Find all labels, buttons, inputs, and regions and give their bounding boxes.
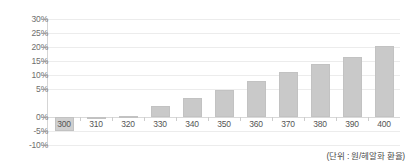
x-tick-330 bbox=[144, 117, 145, 121]
bar-400 bbox=[375, 46, 394, 117]
x-axis-label-320: 320 bbox=[113, 119, 143, 130]
bar-380 bbox=[311, 64, 330, 117]
x-tick-350 bbox=[208, 117, 209, 121]
chart-caption: (단위 : 원/헤알화 환율) bbox=[327, 149, 405, 161]
x-tick-380 bbox=[304, 117, 305, 121]
bar-340 bbox=[183, 98, 202, 117]
x-axis-label-380: 380 bbox=[305, 119, 335, 130]
x-axis-label-350: 350 bbox=[209, 119, 239, 130]
x-tick-390 bbox=[336, 117, 337, 121]
bar-chart: 30% 25% 20% 15% 10% 5% 0% -5% -10% 30031… bbox=[0, 0, 414, 166]
y-axis-label-neg5: -5% bbox=[8, 127, 48, 136]
x-tick-320 bbox=[112, 117, 113, 121]
bar-360 bbox=[247, 81, 266, 117]
y-axis-label-5: 5% bbox=[8, 85, 48, 94]
x-axis-label-310: 310 bbox=[81, 119, 111, 130]
bar-330 bbox=[151, 106, 170, 117]
bar-370 bbox=[279, 72, 298, 117]
y-axis-label-0: 0% bbox=[8, 113, 48, 122]
x-axis-label-370: 370 bbox=[273, 119, 303, 130]
x-axis-label-330: 330 bbox=[145, 119, 175, 130]
x-tick-400 bbox=[368, 117, 369, 121]
y-axis-label-15: 15% bbox=[8, 57, 48, 66]
y-axis-label-10: 10% bbox=[8, 71, 48, 80]
bar-390 bbox=[343, 57, 362, 117]
x-axis-label-340: 340 bbox=[177, 119, 207, 130]
y-axis-label-30: 30% bbox=[8, 15, 48, 24]
bar-350 bbox=[215, 90, 234, 117]
x-tick-370 bbox=[272, 117, 273, 121]
y-axis-label-20: 20% bbox=[8, 43, 48, 52]
x-tick-360 bbox=[240, 117, 241, 121]
x-axis-label-300: 300 bbox=[49, 119, 79, 130]
y-axis-label-neg10: -10% bbox=[8, 141, 48, 150]
bar-series: 300310320330340350360370380390400 bbox=[48, 0, 400, 166]
x-tick-340 bbox=[176, 117, 177, 121]
bar-320 bbox=[119, 116, 138, 118]
x-axis-label-360: 360 bbox=[241, 119, 271, 130]
x-axis-label-390: 390 bbox=[337, 119, 367, 130]
x-axis-label-400: 400 bbox=[369, 119, 399, 130]
y-axis-label-25: 25% bbox=[8, 29, 48, 38]
x-tick-310 bbox=[80, 117, 81, 121]
